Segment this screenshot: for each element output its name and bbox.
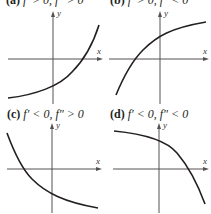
panel-a: (a) f′ > 0, f″ > 0 y x [0, 0, 105, 107]
x-axis-arrow-icon [203, 57, 209, 61]
y-axis-arrow-icon [158, 11, 162, 17]
panel-c-x-label: x [96, 157, 100, 166]
panel-a-graph [0, 0, 105, 107]
panel-d-graph [105, 107, 211, 214]
x-axis-arrow-icon [96, 167, 102, 171]
panel-b-x-label: x [203, 47, 207, 56]
panel-d-x-label: x [203, 157, 207, 166]
panel-d-axes [113, 123, 209, 213]
panel-b-y-label: y [164, 9, 168, 18]
panel-b-graph [105, 0, 211, 107]
panel-d: (d) f′ < 0, f″ < 0 y x [105, 107, 210, 214]
panel-c-graph [0, 107, 105, 214]
y-axis-arrow-icon [157, 123, 161, 129]
panel-a-x-label: x [97, 47, 101, 56]
y-axis-arrow-icon [51, 11, 55, 17]
x-axis-arrow-icon [97, 57, 103, 61]
panel-b: (b) f′ > 0, f″ < 0 y x [105, 0, 210, 107]
panel-a-y-label: y [57, 9, 61, 18]
x-axis-arrow-icon [203, 167, 209, 171]
panel-c: (c) f′ < 0, f″ > 0 y x [0, 107, 105, 214]
panel-c-y-label: y [56, 121, 60, 130]
panel-a-axes [8, 11, 103, 104]
panel-d-y-label: y [163, 121, 167, 130]
panel-c-axes [7, 123, 102, 213]
y-axis-arrow-icon [50, 123, 54, 129]
